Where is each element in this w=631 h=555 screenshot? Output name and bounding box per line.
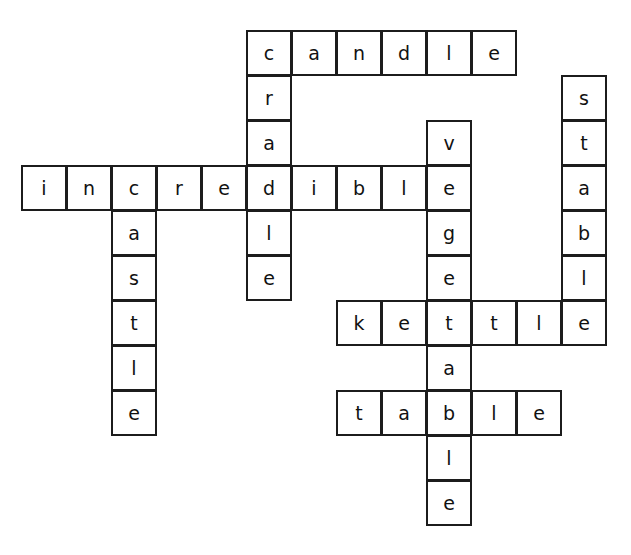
crossword-cell-letter: d [398,43,410,62]
crossword-cell[interactable]: t [426,300,472,346]
crossword-cell-letter: l [491,403,496,422]
crossword-cell-letter: l [131,358,136,377]
crossword-cell-letter: a [578,178,590,197]
crossword-cell[interactable]: i [291,165,337,211]
crossword-cell-letter: t [130,313,137,332]
crossword-cell[interactable]: a [381,390,427,436]
crossword-cell-letter: k [353,313,364,332]
crossword-cell-letter: e [488,43,500,62]
crossword-cell-letter: i [311,178,316,197]
crossword-cell-letter: a [443,358,455,377]
crossword-cell[interactable]: r [156,165,202,211]
crossword-cell[interactable]: e [111,390,157,436]
crossword-cell[interactable]: l [561,255,607,301]
crossword-cell-letter: t [445,313,452,332]
crossword-cell-letter: e [443,493,455,512]
crossword-cell[interactable]: t [561,120,607,166]
crossword-cell[interactable]: s [561,75,607,121]
crossword-cell-letter: r [175,178,183,197]
crossword-cell-letter: e [443,178,455,197]
crossword-cell-letter: g [443,223,455,242]
crossword-cell[interactable]: l [516,300,562,346]
crossword-cell[interactable]: e [516,390,562,436]
crossword-cell-letter: s [129,268,139,287]
crossword-cell-letter: b [443,403,455,422]
crossword-cell-letter: l [536,313,541,332]
crossword-cell[interactable]: v [426,120,472,166]
crossword-cell[interactable]: e [471,30,517,76]
crossword-cell[interactable]: d [246,165,292,211]
crossword-cell[interactable]: n [336,30,382,76]
crossword-cell-letter: c [264,43,274,62]
crossword-cell[interactable]: c [246,30,292,76]
crossword-cell-letter: t [580,133,587,152]
crossword-puzzle: candlersavtincredibleaalgbseeltkettlelae… [0,0,631,555]
crossword-cell-letter: e [218,178,230,197]
crossword-cell[interactable]: a [426,345,472,391]
crossword-cell[interactable]: e [246,255,292,301]
crossword-cell-letter: n [353,43,365,62]
crossword-cell-letter: l [266,223,271,242]
crossword-cell-letter: e [128,403,140,422]
crossword-cell-letter: e [398,313,410,332]
crossword-cell[interactable]: r [246,75,292,121]
crossword-cell-letter: r [265,88,273,107]
crossword-cell[interactable]: a [561,165,607,211]
crossword-cell-letter: c [129,178,139,197]
crossword-cell[interactable]: e [381,300,427,346]
crossword-cell[interactable]: e [426,255,472,301]
crossword-cell[interactable]: l [426,435,472,481]
crossword-cell[interactable]: l [381,165,427,211]
crossword-cell-letter: a [263,133,275,152]
crossword-cell-letter: t [490,313,497,332]
crossword-cell[interactable]: l [426,30,472,76]
crossword-cell-letter: e [443,268,455,287]
crossword-cell-letter: s [579,88,589,107]
crossword-cell[interactable]: t [336,390,382,436]
crossword-cell[interactable]: l [111,345,157,391]
crossword-cell[interactable]: g [426,210,472,256]
crossword-cell[interactable]: b [336,165,382,211]
crossword-cell[interactable]: a [246,120,292,166]
crossword-cell-letter: l [446,448,451,467]
crossword-cell-letter: d [263,178,275,197]
crossword-cell[interactable]: e [426,480,472,526]
crossword-grid: candlersavtincredibleaalgbseeltkettlelae… [0,0,631,555]
crossword-cell-letter: n [83,178,95,197]
crossword-cell-letter: e [533,403,545,422]
crossword-cell-letter: e [578,313,590,332]
crossword-cell[interactable]: e [426,165,472,211]
crossword-cell[interactable]: e [201,165,247,211]
crossword-cell-letter: e [263,268,275,287]
crossword-cell-letter: l [446,43,451,62]
crossword-cell-letter: i [41,178,46,197]
crossword-cell[interactable]: a [291,30,337,76]
crossword-cell[interactable]: a [111,210,157,256]
crossword-cell-letter: b [353,178,365,197]
crossword-cell-letter: a [308,43,320,62]
crossword-cell[interactable]: i [21,165,67,211]
crossword-cell[interactable]: d [381,30,427,76]
crossword-cell[interactable]: t [111,300,157,346]
crossword-cell-letter: a [398,403,410,422]
crossword-cell[interactable]: b [561,210,607,256]
crossword-cell[interactable]: t [471,300,517,346]
crossword-cell-letter: l [401,178,406,197]
crossword-cell[interactable]: k [336,300,382,346]
crossword-cell[interactable]: c [111,165,157,211]
crossword-cell[interactable]: s [111,255,157,301]
crossword-cell[interactable]: b [426,390,472,436]
crossword-cell-letter: a [128,223,140,242]
crossword-cell-letter: b [578,223,590,242]
crossword-cell[interactable]: l [246,210,292,256]
crossword-cell[interactable]: e [561,300,607,346]
crossword-cell[interactable]: l [471,390,517,436]
crossword-cell-letter: l [581,268,586,287]
crossword-cell-letter: t [355,403,362,422]
crossword-cell-letter: v [443,133,454,152]
crossword-cell[interactable]: n [66,165,112,211]
